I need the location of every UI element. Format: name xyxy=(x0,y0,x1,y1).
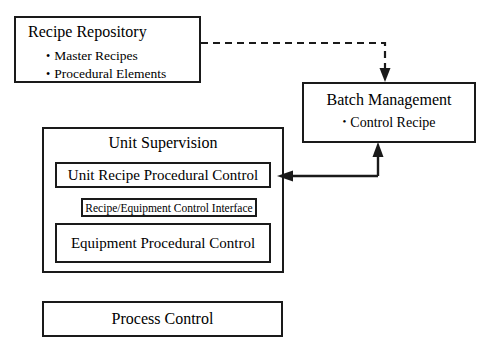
connector-repository-to-batch xyxy=(201,43,391,82)
arrowhead-left-icon xyxy=(277,171,293,182)
arrowhead-down-icon xyxy=(380,68,391,82)
diagram-canvas: Recipe Repository Master Recipes Procedu… xyxy=(0,0,488,353)
arrowhead-up-icon xyxy=(373,142,384,157)
connector-layer xyxy=(0,0,488,353)
connector-batch-to-unit-supervision xyxy=(373,142,384,176)
connector-batch-to-unit-recipe-procedural-control xyxy=(277,171,378,182)
